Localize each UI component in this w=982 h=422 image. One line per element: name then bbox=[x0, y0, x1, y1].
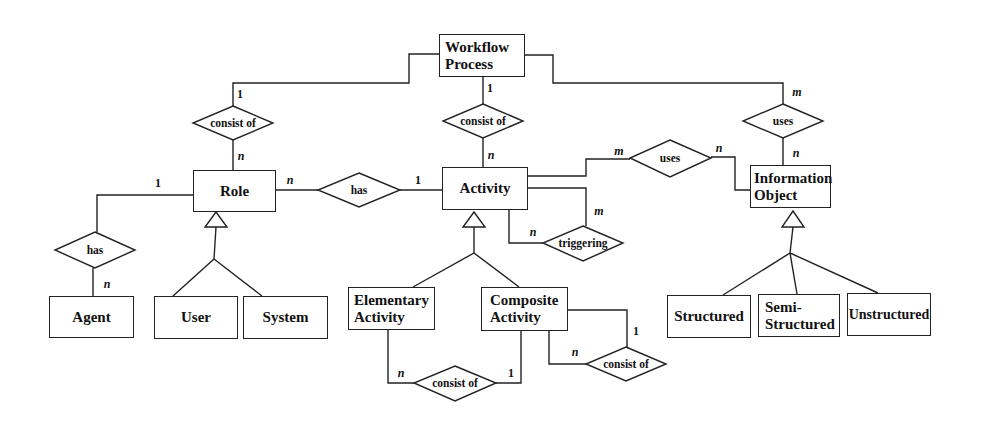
isa-triangle-role bbox=[205, 212, 227, 227]
label-wp-uses-info: uses bbox=[773, 115, 793, 127]
connector-wp-role bbox=[233, 54, 439, 106]
isa-triangle-info bbox=[782, 211, 804, 227]
label-activity-uses: uses bbox=[660, 152, 680, 164]
er-diagram: Workflow Process Role Activity Informati… bbox=[0, 0, 982, 422]
label-triggering: triggering bbox=[558, 237, 607, 249]
connector-uses-info-obj bbox=[711, 157, 750, 190]
card-elem-consist-right: 1 bbox=[508, 366, 514, 381]
connector-wp-info bbox=[524, 55, 783, 104]
connector-activity-uses bbox=[527, 159, 630, 176]
entity-information-object: Information Object bbox=[750, 165, 831, 208]
card-activity-uses-right: n bbox=[716, 141, 723, 156]
entity-unstructured: Unstructured bbox=[847, 293, 931, 336]
entity-elementary-activity: Elementary Activity bbox=[348, 287, 435, 330]
label-role-has-activity: has bbox=[351, 184, 368, 196]
connector-activity-triggering-left bbox=[509, 209, 543, 243]
entity-semi-structured: Semi-Structured bbox=[758, 294, 840, 337]
label-agent-has: has bbox=[87, 244, 104, 256]
card-comp-consist-left: n bbox=[572, 345, 579, 360]
card-wp-activity-bottom: n bbox=[488, 148, 495, 163]
card-agent-has-bottom: n bbox=[104, 277, 111, 292]
card-wp-info-bottom: n bbox=[793, 146, 800, 161]
label-elem-consist: consist of bbox=[432, 377, 478, 389]
card-role-has-right: 1 bbox=[415, 173, 421, 188]
entity-role: Role bbox=[193, 170, 276, 212]
card-role-has-left: n bbox=[287, 173, 294, 188]
entity-structured: Structured bbox=[667, 295, 751, 338]
card-wp-info-top: m bbox=[792, 85, 801, 100]
label-wp-consist-role: consist of bbox=[210, 117, 256, 129]
card-wp-role-bottom: n bbox=[238, 149, 245, 164]
card-wp-activity-top: 1 bbox=[487, 81, 493, 96]
label-comp-consist: consist of bbox=[603, 358, 649, 370]
entity-user: User bbox=[154, 296, 238, 339]
card-wp-role-top: 1 bbox=[237, 87, 243, 102]
entity-activity: Activity bbox=[442, 167, 528, 210]
entity-workflow-process: Workflow Process bbox=[439, 34, 525, 77]
card-comp-consist-top: 1 bbox=[633, 324, 639, 339]
card-triggering-top: m bbox=[594, 204, 603, 219]
label-wp-consist-activity: consist of bbox=[460, 115, 506, 127]
card-agent-has-top: 1 bbox=[155, 176, 161, 191]
connector-role-agent-has bbox=[97, 195, 193, 232]
entity-system: System bbox=[243, 296, 328, 339]
card-activity-uses-left: m bbox=[614, 144, 623, 159]
connector-activity-triggering-top bbox=[527, 188, 586, 226]
card-elem-consist-left: n bbox=[398, 366, 405, 381]
card-triggering-left: n bbox=[530, 225, 537, 240]
isa-triangle-activity bbox=[463, 212, 485, 227]
entity-composite-activity: Composite Activity bbox=[481, 287, 568, 331]
entity-agent: Agent bbox=[49, 296, 134, 338]
